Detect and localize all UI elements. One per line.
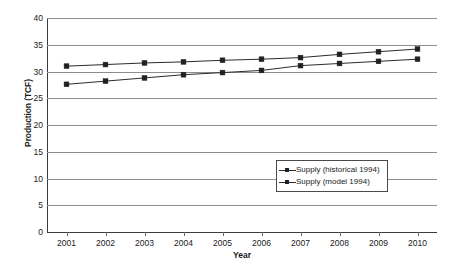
series-layer [47, 18, 437, 232]
x-tick-mark [223, 232, 224, 236]
x-axis-title: Year [47, 250, 437, 260]
y-tick-label: 20 [34, 120, 43, 130]
x-tick-mark [184, 232, 185, 236]
y-axis-title: Production (TCF) [23, 33, 33, 193]
x-tick-mark [301, 232, 302, 236]
data-point-marker [298, 55, 303, 60]
y-tick-label: 0 [38, 227, 43, 237]
x-tick-mark [67, 232, 68, 236]
x-tick-mark [262, 232, 263, 236]
data-point-marker [181, 59, 186, 64]
x-tick-label: 2005 [213, 238, 232, 248]
data-point-marker [220, 58, 225, 63]
y-tick-label: 25 [34, 93, 43, 103]
x-tick-label: 2009 [369, 238, 388, 248]
legend-item-label: Supply (model 1994) [296, 177, 370, 187]
data-point-marker [376, 49, 381, 54]
legend-item: Supply (historical 1994) [279, 164, 384, 176]
data-point-marker [103, 62, 108, 67]
data-point-marker [142, 61, 147, 66]
data-point-marker [376, 59, 381, 64]
series-line [67, 49, 418, 66]
x-tick-label: 2004 [174, 238, 193, 248]
legend-item-label: Supply (historical 1994) [296, 165, 380, 175]
x-tick-mark [106, 232, 107, 236]
y-tick-label: 30 [34, 67, 43, 77]
data-point-marker [142, 76, 147, 81]
legend: Supply (historical 1994) Supply (model 1… [276, 160, 388, 192]
series-line [67, 59, 418, 84]
data-point-marker [64, 64, 69, 69]
data-point-marker [259, 57, 264, 62]
y-tick-label: 10 [34, 174, 43, 184]
data-point-marker [415, 47, 420, 52]
x-tick-mark [379, 232, 380, 236]
y-tick-label: 5 [38, 200, 43, 210]
x-tick-label: 2007 [291, 238, 310, 248]
y-tick-label: 35 [34, 40, 43, 50]
x-tick-mark [145, 232, 146, 236]
y-tick-label: 15 [34, 147, 43, 157]
data-point-marker [181, 72, 186, 77]
x-tick-label: 2008 [330, 238, 349, 248]
line-chart: Production (TCF) 0510152025303540 200120… [0, 0, 456, 272]
x-tick-mark [418, 232, 419, 236]
legend-marker-icon [279, 165, 296, 175]
x-tick-label: 2002 [96, 238, 115, 248]
data-point-marker [103, 79, 108, 84]
plot-area: 0510152025303540 20012002200320042005200… [47, 18, 437, 232]
data-point-marker [337, 61, 342, 66]
legend-marker-icon [279, 177, 296, 187]
legend-item: Supply (model 1994) [279, 176, 384, 188]
data-point-marker [415, 57, 420, 62]
data-point-marker [64, 82, 69, 87]
x-tick-mark [340, 232, 341, 236]
x-tick-label: 2010 [408, 238, 427, 248]
x-tick-label: 2006 [252, 238, 271, 248]
data-point-marker [220, 70, 225, 75]
x-tick-label: 2003 [135, 238, 154, 248]
data-point-marker [298, 63, 303, 68]
y-tick-label: 40 [34, 13, 43, 23]
data-point-marker [259, 68, 264, 73]
x-tick-label: 2001 [57, 238, 76, 248]
data-point-marker [337, 52, 342, 57]
